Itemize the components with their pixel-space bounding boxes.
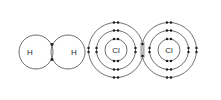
diagram-canvas: H H Cl xyxy=(0,0,221,100)
hydrogen-molecule: H H xyxy=(19,35,85,69)
chlorine-atom-2-electron xyxy=(166,60,168,62)
chlorine-atom-1-electron xyxy=(117,38,119,40)
chlorine-atom-2-electron xyxy=(170,38,172,40)
chlorine-atom-2-electron xyxy=(187,51,189,53)
chlorine-atom-2-electron xyxy=(166,38,168,40)
chlorine-atom-2-electron xyxy=(166,76,168,78)
hydrogen-atom-2-shell-1 xyxy=(51,35,85,69)
chlorine-shared-electron-2 xyxy=(141,55,144,58)
hydrogen-shared-electron-2 xyxy=(51,58,54,61)
chlorine-atom-1-electron xyxy=(87,51,89,53)
chlorine-shared-electron-1 xyxy=(141,43,144,46)
chlorine-atom-2-electron xyxy=(166,68,168,70)
chlorine-atom-1-electron xyxy=(113,38,115,40)
hydrogen-atom-1-label: H xyxy=(27,48,33,57)
chlorine-molecule: Cl xyxy=(87,21,197,78)
chlorine-atom-2-electron xyxy=(187,47,189,49)
chlorine-atom-1-electron xyxy=(117,76,119,78)
chlorine-atom-2-electron xyxy=(170,60,172,62)
chlorine-atom-2-electron xyxy=(166,21,168,23)
hydrogen-atom-2-label: H xyxy=(71,48,77,57)
chlorine-atom-2-electron xyxy=(170,76,172,78)
chlorine-atom-1-electron xyxy=(113,21,115,23)
chlorine-atom-2-electron xyxy=(170,29,172,31)
chlorine-atom-2-electron xyxy=(166,29,168,31)
chlorine-atom-1-electron xyxy=(117,21,119,23)
chlorine-atom-1-electron xyxy=(134,47,136,49)
chlorine-atom-2-electron xyxy=(195,51,197,53)
chlorine-atom-1-electron xyxy=(134,51,136,53)
chlorine-atom-1-electron xyxy=(117,60,119,62)
hydrogen-atom-1-shell-1 xyxy=(19,35,53,69)
chlorine-atom-2: Cl xyxy=(142,21,198,78)
chlorine-atom-2-electron xyxy=(170,68,172,70)
chlorine-atom-1-electron xyxy=(113,68,115,70)
chlorine-atom-1-label: Cl xyxy=(112,46,120,55)
chlorine-atom-1-electron xyxy=(117,68,119,70)
chlorine-atom-1-electron xyxy=(117,29,119,31)
hydrogen-shared-electron-1 xyxy=(51,43,54,46)
chlorine-atom-1-electron xyxy=(113,60,115,62)
bonding-diagram-svg: H H Cl xyxy=(0,0,221,100)
chlorine-atom-1-electron xyxy=(87,47,89,49)
chlorine-atom-2-electron xyxy=(148,47,150,49)
chlorine-atom-2-electron xyxy=(148,51,150,53)
chlorine-atom-2-electron xyxy=(195,47,197,49)
chlorine-atom-2-electron xyxy=(170,21,172,23)
chlorine-atom-1-electron xyxy=(95,51,97,53)
chlorine-atom-1-electron xyxy=(95,47,97,49)
chlorine-atom-2-label: Cl xyxy=(165,46,173,55)
chlorine-atom-1-electron xyxy=(113,29,115,31)
chlorine-atom-1: Cl xyxy=(87,21,143,78)
chlorine-atom-1-electron xyxy=(113,76,115,78)
